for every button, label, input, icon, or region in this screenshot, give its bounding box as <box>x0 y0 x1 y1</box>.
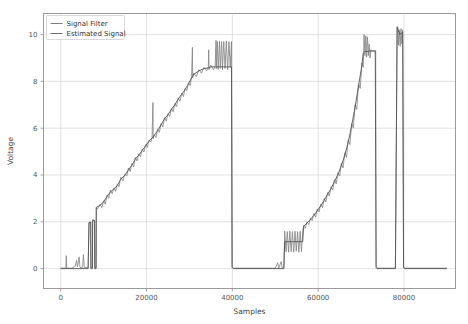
y-tick-label: 4 <box>33 171 38 179</box>
chart-legend: Signal FilterEstimated Signal <box>47 16 126 40</box>
figure-background <box>0 0 468 324</box>
x-tick-label: 40000 <box>221 294 243 302</box>
y-tick-label: 8 <box>33 78 37 86</box>
x-axis-label: Samples <box>233 307 265 316</box>
legend-label-1: Signal Filter <box>67 20 108 28</box>
y-tick-label: 6 <box>33 125 38 133</box>
y-tick-label: 2 <box>33 218 37 226</box>
x-tick-label: 60000 <box>307 294 329 302</box>
legend-label-2: Estimated Signal <box>67 30 126 38</box>
x-tick-label: 0 <box>58 294 62 302</box>
chart-figure: 020000400006000080000 0246810 Samples Vo… <box>0 0 468 324</box>
y-tick-label: 0 <box>33 265 37 273</box>
x-tick-label: 80000 <box>393 294 415 302</box>
signal-voltage-plot: 020000400006000080000 0246810 Samples Vo… <box>0 0 468 324</box>
y-tick-label: 10 <box>29 31 38 39</box>
y-axis-label: Voltage <box>6 137 15 166</box>
x-tick-label: 20000 <box>135 294 157 302</box>
